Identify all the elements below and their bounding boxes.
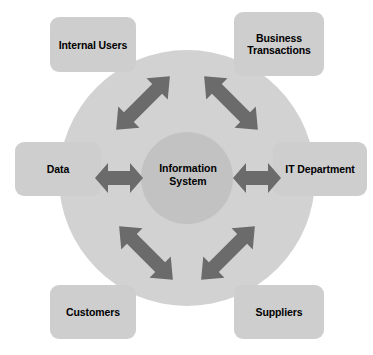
node-customers[interactable]: Customers bbox=[50, 285, 136, 339]
node-data[interactable]: Data bbox=[15, 142, 101, 196]
node-information-system-label-line1: Information bbox=[159, 162, 217, 174]
node-it-department-label: IT Department bbox=[285, 163, 354, 175]
node-suppliers-label: Suppliers bbox=[256, 306, 303, 318]
node-business-transactions-label-line2: Transactions bbox=[247, 44, 311, 56]
node-customers-label: Customers bbox=[66, 306, 120, 318]
node-it-department[interactable]: IT Department bbox=[273, 142, 367, 196]
node-business-transactions[interactable]: Business Transactions bbox=[234, 12, 324, 76]
diagram-caption bbox=[0, 345, 373, 355]
node-data-label: Data bbox=[47, 163, 69, 175]
node-internal-users-label: Internal Users bbox=[59, 39, 128, 51]
node-business-transactions-label-line1: Business bbox=[247, 32, 311, 44]
node-information-system-label-line2: System bbox=[169, 175, 206, 187]
information-system-diagram: Internal Users Business Transactions Dat… bbox=[0, 0, 373, 355]
node-information-system[interactable]: Information System bbox=[148, 162, 228, 187]
node-internal-users[interactable]: Internal Users bbox=[50, 17, 136, 72]
node-suppliers[interactable]: Suppliers bbox=[234, 285, 324, 339]
